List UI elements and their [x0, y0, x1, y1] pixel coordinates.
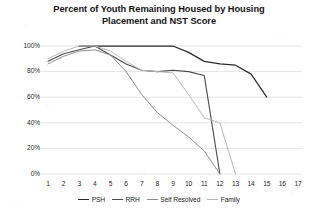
series-line-rrh: [48, 46, 220, 174]
series-lines: [48, 46, 267, 174]
legend-swatch-icon: [207, 199, 218, 200]
plot-area: [0, 0, 318, 221]
legend-item-self-resolved[interactable]: Self Resolved: [147, 196, 200, 203]
chart-legend: PSHRRHSelf ResolvedFamily: [0, 196, 318, 203]
legend-item-psh[interactable]: PSH: [78, 196, 105, 203]
legend-label: Self Resolved: [160, 196, 200, 203]
legend-item-rrh[interactable]: RRH: [112, 196, 140, 203]
legend-item-family[interactable]: Family: [207, 196, 240, 203]
legend-label: Family: [221, 196, 240, 203]
legend-swatch-icon: [78, 199, 89, 200]
legend-swatch-icon: [112, 199, 123, 200]
legend-label: RRH: [126, 196, 140, 203]
series-line-self-resolved: [48, 50, 220, 174]
legend-label: PSH: [92, 196, 105, 203]
legend-swatch-icon: [147, 199, 158, 200]
gridlines: [42, 46, 302, 174]
